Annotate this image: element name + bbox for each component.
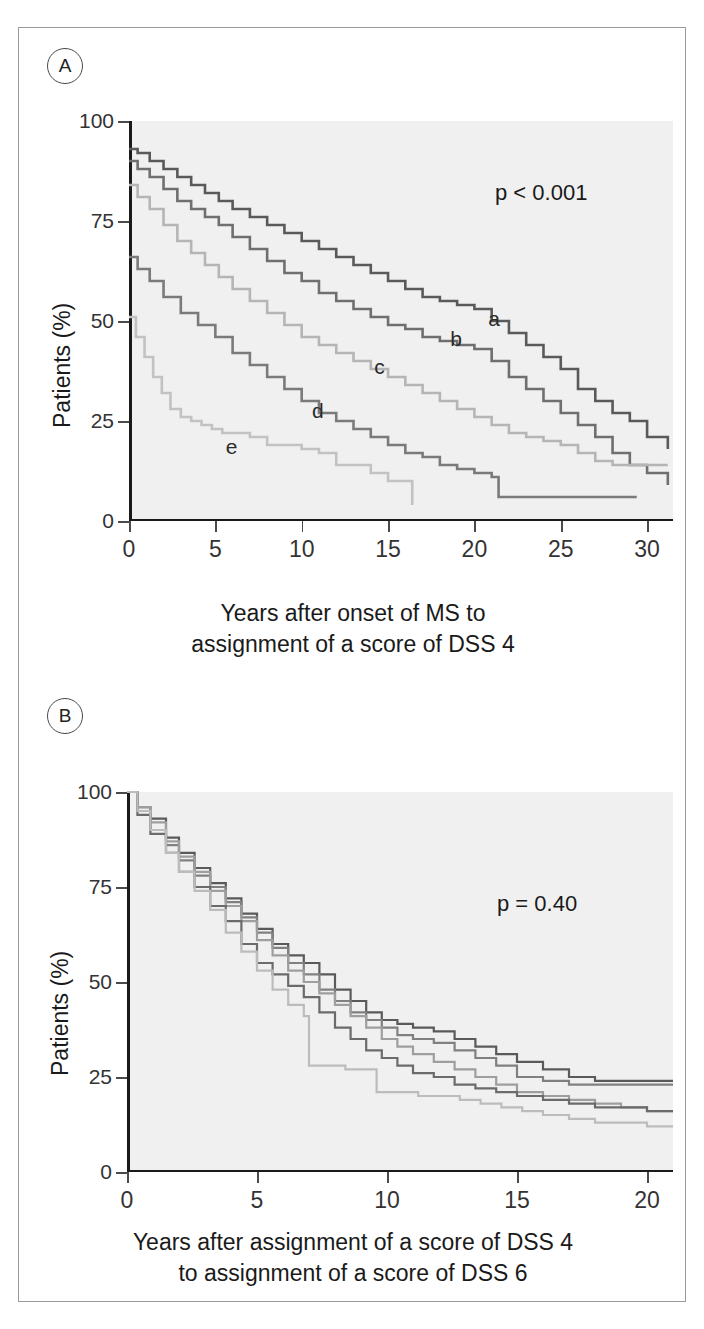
panel-a-x-axis-caption: Years after onset of MS to assignment of… (19, 598, 687, 659)
panel-a-pvalue: p < 0.001 (495, 180, 587, 206)
x-tick-mark (215, 521, 217, 532)
y-tick-mark (116, 1077, 127, 1079)
panel-b-caption-line-2: to assignment of a score of DSS 6 (19, 1258, 687, 1289)
x-tick-mark (647, 1172, 649, 1183)
curve-label-a: a (488, 307, 500, 331)
y-tick-mark (118, 121, 129, 123)
survival-curve-d (127, 792, 673, 1111)
panel-a-curves (129, 121, 673, 521)
panel-b-y-axis-label: Patients (%) (47, 951, 74, 1076)
y-tick-label: 50 (89, 970, 112, 994)
x-tick-label: 30 (634, 536, 660, 563)
x-tick-label: 15 (375, 536, 401, 563)
panel-a-caption-line-1: Years after onset of MS to (19, 598, 687, 629)
x-tick-label: 10 (289, 536, 315, 563)
y-tick-mark (116, 982, 127, 984)
panel-a-caption-line-2: assignment of a score of DSS 4 (19, 629, 687, 660)
y-tick-mark (118, 421, 129, 423)
y-tick-label: 75 (91, 209, 114, 233)
x-tick-label: 15 (504, 1187, 530, 1214)
x-tick-mark (474, 521, 476, 532)
panel-b-badge: B (47, 698, 83, 734)
x-tick-label: 20 (462, 536, 488, 563)
y-tick-label: 0 (100, 1160, 112, 1184)
panel-b-pvalue: p = 0.40 (497, 891, 577, 917)
y-tick-mark (118, 521, 129, 523)
survival-curve-e (129, 317, 412, 505)
panel-a-y-axis-label: Patients (%) (49, 303, 76, 428)
y-tick-label: 25 (91, 409, 114, 433)
y-tick-mark (116, 1172, 127, 1174)
x-tick-mark (387, 1172, 389, 1183)
y-tick-label: 50 (91, 309, 114, 333)
panel-b-caption-line-1: Years after assignment of a score of DSS… (19, 1227, 687, 1258)
x-tick-label: 5 (251, 1187, 264, 1214)
x-tick-mark (647, 521, 649, 532)
panel-b: B Patients (%) 025507510005101520 p = 0.… (19, 676, 687, 1302)
y-tick-label: 75 (89, 875, 112, 899)
curve-label-d: d (312, 399, 324, 423)
x-tick-mark (517, 1172, 519, 1183)
y-tick-label: 25 (89, 1065, 112, 1089)
x-tick-label: 20 (634, 1187, 660, 1214)
y-tick-label: 0 (102, 509, 114, 533)
x-tick-label: 25 (548, 536, 574, 563)
curve-label-b: b (450, 327, 462, 351)
x-tick-label: 5 (209, 536, 222, 563)
y-tick-label: 100 (79, 109, 114, 133)
y-tick-mark (116, 887, 127, 889)
x-tick-label: 0 (123, 536, 136, 563)
figure-frame: A Patients (%) 0255075100051015202530 ab… (18, 27, 686, 1302)
x-tick-label: 0 (121, 1187, 134, 1214)
x-tick-mark (257, 1172, 259, 1183)
panel-b-curves (127, 792, 673, 1172)
x-tick-mark (127, 1172, 129, 1183)
x-tick-label: 10 (374, 1187, 400, 1214)
y-tick-label: 100 (77, 780, 112, 804)
curve-label-e: e (226, 435, 238, 459)
panel-a: A Patients (%) 0255075100051015202530 ab… (19, 28, 687, 676)
y-tick-mark (118, 321, 129, 323)
y-tick-mark (118, 221, 129, 223)
survival-curve-b (127, 792, 673, 1085)
x-tick-mark (302, 521, 304, 532)
y-tick-mark (116, 792, 127, 794)
survival-curve-b (129, 161, 668, 485)
curve-label-c: c (374, 355, 385, 379)
panel-a-plot-area: 0255075100051015202530 abcde (129, 121, 673, 521)
survival-curve-c (127, 792, 673, 1111)
panel-a-badge: A (47, 48, 83, 84)
x-tick-mark (388, 521, 390, 532)
panel-b-plot-area: 025507510005101520 (127, 792, 673, 1172)
panel-b-x-axis-caption: Years after assignment of a score of DSS… (19, 1227, 687, 1288)
survival-curve-a (127, 792, 673, 1081)
x-tick-mark (129, 521, 131, 532)
x-tick-mark (561, 521, 563, 532)
